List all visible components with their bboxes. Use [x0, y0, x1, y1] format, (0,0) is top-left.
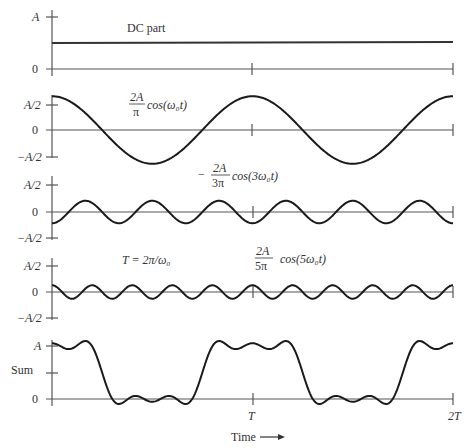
ytick-0: 0: [32, 285, 38, 299]
panel-third-harmonic: A/2 0 −A/2 − 2A 3π cos(3ω₀t): [17, 161, 453, 245]
func-label: cos(5ω₀t): [280, 252, 326, 266]
coef-num: 2A: [130, 90, 144, 104]
ytick-A: A: [31, 10, 40, 24]
panel-fifth-harmonic: A/2 0 −A/2 T = 2π/ω₀ 2A 5π cos(5ω₀t): [17, 244, 453, 325]
ytick-0: 0: [32, 392, 38, 406]
ytick-half: A/2: [23, 98, 41, 112]
ytick-0: 0: [32, 62, 38, 76]
coef-den: π: [133, 105, 139, 119]
time-axis-label: Time: [231, 430, 256, 444]
ytick-neg-half: −A/2: [17, 231, 42, 245]
panel-fundamental: A/2 0 −A/2 2A π cos(ω₀t): [17, 90, 453, 164]
dc-line: [52, 42, 453, 43]
arrow-right-icon: [260, 434, 285, 440]
dc-annotation: DC part: [127, 21, 166, 35]
coef-den: 3π: [212, 176, 224, 190]
ytick-A: A: [33, 339, 42, 353]
func-label: cos(ω₀t): [147, 98, 187, 112]
panel-sum: A Sum 0 T 2T Time: [11, 339, 462, 444]
coef-num: 2A: [256, 244, 270, 258]
panel-dc: A 0 DC part: [31, 10, 453, 76]
period-note: T = 2π/ω₀: [122, 253, 171, 267]
ytick-half: A/2: [23, 259, 41, 273]
ytick-0: 0: [32, 205, 38, 219]
fourier-figure: A 0 DC part A/2 0 −A/2 2A π cos(ω₀t) A/2…: [0, 0, 475, 448]
ytick-neg-half: −A/2: [17, 150, 42, 164]
ytick-neg-half: −A/2: [17, 311, 42, 325]
xtick-T: T: [248, 409, 256, 423]
minus-sign: −: [198, 167, 205, 181]
sum-label: Sum: [11, 363, 34, 377]
ytick-0: 0: [32, 123, 38, 137]
func-label: cos(3ω₀t): [232, 169, 278, 183]
xtick-2T: 2T: [448, 409, 462, 423]
coef-den: 5π: [255, 259, 267, 273]
ytick-half: A/2: [23, 178, 41, 192]
coef-num: 2A: [213, 161, 227, 175]
